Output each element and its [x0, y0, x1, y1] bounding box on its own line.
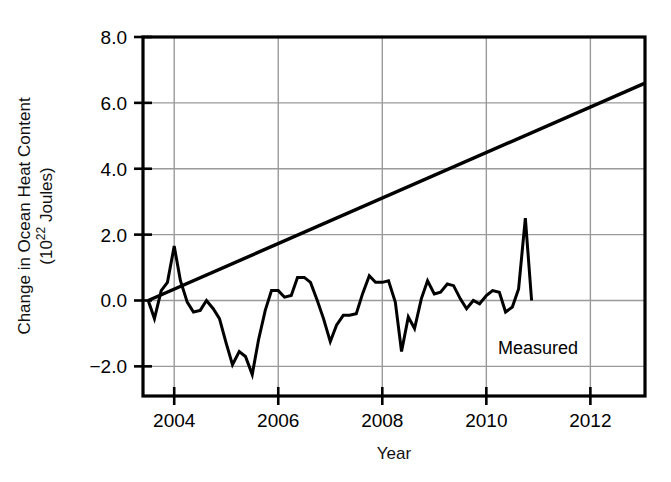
- x-tick-label-2008: 2008: [361, 410, 403, 431]
- y-axis-title-prefix: (10: [37, 240, 56, 265]
- y-axis-title-exponent: 22: [34, 226, 48, 240]
- y-tick-label-0.0: 0.0: [101, 290, 127, 311]
- y-tick-label-2.0: 2.0: [101, 225, 127, 246]
- x-tick-label-2012: 2012: [569, 410, 611, 431]
- y-tick-label-6.0: 6.0: [101, 93, 127, 114]
- y-tick-label-4.0: 4.0: [101, 159, 127, 180]
- ocean-heat-content-chart: 20042006200820102012 −2.00.02.04.06.08.0…: [0, 0, 671, 482]
- x-axis-title: Year: [377, 444, 412, 463]
- y-axis-title-line2: (1022 Joules): [34, 167, 56, 264]
- y-tick-label-neg2.0: −2.0: [89, 356, 127, 377]
- x-tick-label-2004: 2004: [153, 410, 196, 431]
- annotation-measured: Measured: [498, 338, 578, 358]
- y-axis-title-line1: Change in Ocean Heat Content: [15, 97, 34, 334]
- x-tick-label-2006: 2006: [257, 410, 299, 431]
- y-axis-title-suffix: Joules): [37, 167, 56, 227]
- y-tick-label-8.0: 8.0: [101, 27, 127, 48]
- x-tick-label-2010: 2010: [465, 410, 507, 431]
- chart-svg: 20042006200820102012 −2.00.02.04.06.08.0…: [0, 0, 671, 482]
